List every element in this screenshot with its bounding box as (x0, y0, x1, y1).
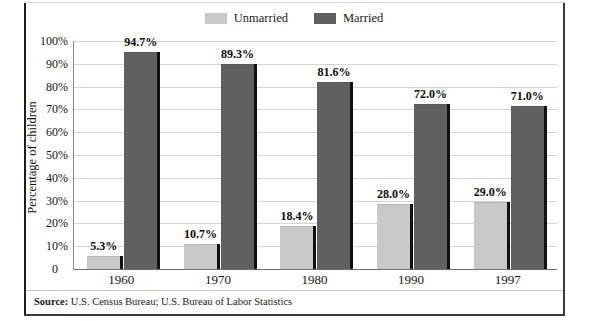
bar-slot: 89.3% (221, 41, 254, 269)
x-axis-tick-label: 1997 (459, 272, 556, 288)
bar-slot: 18.4% (280, 41, 313, 269)
bar-married-1990[interactable]: 72.0% (414, 104, 447, 269)
bar-value-label: 94.7% (124, 35, 157, 50)
legend-swatch-married (314, 13, 336, 24)
x-axis-tick-label: 1980 (266, 272, 363, 288)
plot-area: 100%90%80%70%60%50%40%30%20%10% 5.3%94.7… (73, 41, 557, 270)
y-axis-tick-label: 100% (40, 34, 68, 49)
bar-slot: 81.6% (317, 41, 350, 269)
bar-groups: 5.3%94.7%10.7%89.3%18.4%81.6%28.0%72.0%2… (74, 41, 557, 269)
bar-value-label: 10.7% (184, 227, 217, 242)
y-axis-tick-label: 50% (46, 148, 68, 163)
footer-divider (26, 290, 563, 291)
bar-value-label: 5.3% (90, 239, 117, 254)
bar-value-label: 28.0% (377, 187, 410, 202)
y-axis-tick-label: 20% (46, 216, 68, 231)
x-axis-tick-label: 1990 (363, 272, 460, 288)
bar-unmarried-1990[interactable]: 28.0% (377, 204, 410, 269)
y-axis-title: Percentage of children (25, 68, 40, 248)
bar-value-label: 89.3% (221, 47, 254, 62)
figure-border-top (24, 2, 565, 3)
legend-label-unmarried: Unmarried (234, 12, 288, 25)
y-axis-tick-label: 40% (46, 170, 68, 185)
bar-slot: 5.3% (87, 41, 120, 269)
chart-legend: Unmarried Married (24, 12, 564, 25)
figure-border-right (563, 2, 565, 315)
bar-value-label: 81.6% (317, 65, 350, 80)
bar-slot: 71.0% (511, 41, 544, 269)
bar-slot: 10.7% (184, 41, 217, 269)
source-note: Source: U.S. Census Bureau; U.S. Bureau … (34, 296, 292, 307)
bar-group: 29.0%71.0% (460, 41, 557, 269)
bar-value-label: 72.0% (414, 87, 447, 102)
bar-value-label: 71.0% (511, 89, 544, 104)
y-axis-zero-label: 0 (52, 262, 58, 277)
x-axis-labels: 19601970198019901997 (73, 272, 556, 288)
y-axis-tick-label: 60% (46, 125, 68, 140)
y-axis-tick-label: 30% (46, 193, 68, 208)
bar-unmarried-1980[interactable]: 18.4% (280, 226, 313, 269)
bar-unmarried-1997[interactable]: 29.0% (474, 202, 507, 269)
bar-married-1960[interactable]: 94.7% (124, 52, 157, 269)
y-axis-tick-label: 70% (46, 102, 68, 117)
bar-married-1980[interactable]: 81.6% (317, 82, 350, 269)
bar-slot: 28.0% (377, 41, 410, 269)
bar-group: 10.7%89.3% (171, 41, 268, 269)
legend-item-unmarried: Unmarried (205, 12, 288, 25)
x-axis-tick-label: 1970 (170, 272, 267, 288)
legend-swatch-unmarried (205, 13, 227, 24)
x-axis-tick-label: 1960 (73, 272, 170, 288)
bar-married-1970[interactable]: 89.3% (221, 64, 254, 269)
bar-group: 5.3%94.7% (74, 41, 171, 269)
bar-slot: 94.7% (124, 41, 157, 269)
bar-group: 28.0%72.0% (364, 41, 461, 269)
figure-border-bottom (24, 314, 565, 316)
bar-slot: 29.0% (474, 41, 507, 269)
y-axis-tick-label: 80% (46, 79, 68, 94)
bar-unmarried-1960[interactable]: 5.3% (87, 256, 120, 269)
source-text: U.S. Census Bureau; U.S. Bureau of Labor… (71, 296, 292, 307)
y-axis-tick-label: 10% (46, 239, 68, 254)
chart-figure: Unmarried Married Percentage of children… (0, 0, 592, 321)
y-axis-tick-label: 90% (46, 56, 68, 71)
source-prefix: Source: (34, 296, 68, 307)
bar-group: 18.4%81.6% (267, 41, 364, 269)
bar-unmarried-1970[interactable]: 10.7% (184, 244, 217, 269)
bar-slot: 72.0% (414, 41, 447, 269)
bar-value-label: 29.0% (474, 185, 507, 200)
bar-value-label: 18.4% (280, 209, 313, 224)
legend-label-married: Married (343, 12, 383, 25)
bar-married-1997[interactable]: 71.0% (511, 106, 544, 269)
legend-item-married: Married (314, 12, 383, 25)
